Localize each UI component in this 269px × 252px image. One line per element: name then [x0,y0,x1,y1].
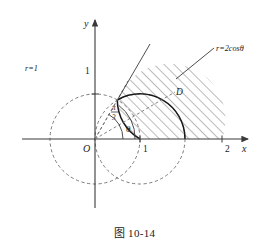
region-d-label: D [175,87,183,97]
x-tick-label-1: 1 [143,144,148,154]
pi-over-three-numerator: π [112,104,116,112]
x-axis-label: x [241,143,247,154]
x-tick-label-2: 2 [225,144,230,154]
figure-caption: 图 10-14 [0,224,269,240]
unit-circle-label: r=1 [25,64,38,73]
figure-container: x y O 1 2 1 r=1 r=2cosθ D θ π 3 图 10-14 [0,0,269,252]
polar-region-diagram: x y O 1 2 1 r=1 r=2cosθ D θ π 3 [0,0,269,225]
y-axis-label: y [83,18,89,29]
y-tick-label-1: 1 [85,66,90,76]
origin-label: O [83,143,90,154]
theta-angle-label: θ [126,124,131,134]
pi-over-three-denominator: 3 [111,114,116,122]
cos-circle-label: r=2cosθ [216,44,244,53]
